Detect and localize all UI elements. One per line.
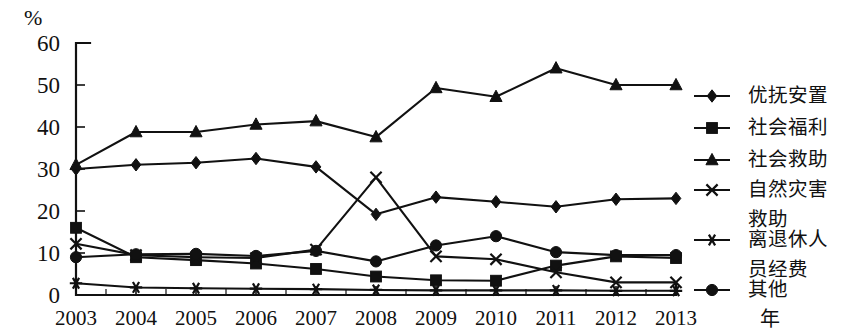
cross-marker bbox=[370, 172, 381, 183]
series-2 bbox=[70, 62, 682, 170]
legend-label: 优抚安置 bbox=[748, 84, 828, 107]
line-chart: % 年 0102030405060 2003200420052006200720… bbox=[0, 0, 864, 333]
diamond-marker bbox=[251, 152, 261, 164]
x-tick-label-2008: 2008 bbox=[355, 306, 397, 330]
diamond-marker bbox=[431, 191, 441, 203]
x-tick-label-2003: 2003 bbox=[55, 306, 97, 330]
series-line bbox=[76, 159, 676, 215]
circle-marker bbox=[550, 247, 561, 258]
x-tick-label-2005: 2005 bbox=[175, 306, 217, 330]
square-marker bbox=[71, 222, 82, 233]
y-tick-label-10: 10 bbox=[37, 241, 60, 266]
x-tick-label-2004: 2004 bbox=[115, 306, 158, 330]
triangle-marker bbox=[310, 115, 322, 126]
y-tick-label-20: 20 bbox=[37, 199, 60, 224]
diamond-marker bbox=[491, 196, 501, 208]
y-tick-label-50: 50 bbox=[37, 73, 60, 98]
x-tick-label-2010: 2010 bbox=[475, 306, 517, 330]
legend-item-3[interactable]: 自然灾害救助 bbox=[694, 178, 828, 231]
circle-marker bbox=[250, 250, 261, 261]
triangle-marker bbox=[550, 62, 562, 73]
circle-marker bbox=[706, 284, 717, 295]
series-5 bbox=[70, 231, 681, 267]
circle-marker bbox=[310, 245, 321, 256]
legend-item-1[interactable]: 社会福利 bbox=[694, 116, 828, 139]
circle-marker bbox=[130, 249, 141, 260]
square-marker bbox=[371, 271, 382, 282]
square-marker bbox=[431, 275, 442, 286]
series-0 bbox=[71, 152, 681, 220]
square-marker bbox=[707, 123, 718, 134]
y-tick-label-30: 30 bbox=[37, 157, 60, 182]
triangle-marker bbox=[70, 158, 82, 169]
diamond-marker bbox=[671, 192, 681, 204]
x-tick-label-2009: 2009 bbox=[415, 306, 457, 330]
circle-marker bbox=[610, 250, 621, 261]
x-tick-label-2006: 2006 bbox=[235, 306, 277, 330]
y-tick-label-0: 0 bbox=[49, 283, 61, 308]
square-marker bbox=[311, 264, 322, 275]
legend-label: 其他 bbox=[748, 278, 788, 301]
diamond-marker bbox=[611, 193, 621, 205]
diamond-marker bbox=[131, 159, 141, 171]
y-axis-tick-labels: 0102030405060 bbox=[37, 31, 60, 308]
diamond-marker bbox=[707, 90, 717, 102]
y-axis-unit: % bbox=[24, 5, 42, 30]
series-line bbox=[76, 68, 676, 165]
square-marker bbox=[491, 275, 502, 286]
chart-legend: 优抚安置社会福利社会救助自然灾害救助离退休人员经费其他 bbox=[694, 84, 828, 301]
circle-marker bbox=[190, 248, 201, 259]
diamond-marker bbox=[551, 201, 561, 213]
x-axis-tick-labels: 2003200420052006200720082009201020112012… bbox=[55, 306, 697, 330]
chart-series bbox=[70, 62, 682, 297]
legend-label: 离退休人 bbox=[748, 228, 828, 251]
y-axis-unit-label: % bbox=[24, 5, 42, 30]
circle-marker bbox=[70, 252, 81, 263]
x-tick-label-2007: 2007 bbox=[295, 306, 337, 330]
x-axis-unit-label: 年 bbox=[760, 307, 780, 331]
y-tick-label-40: 40 bbox=[37, 115, 60, 140]
x-tick-label-2013: 2013 bbox=[655, 306, 697, 330]
diamond-marker bbox=[311, 161, 321, 173]
circle-marker bbox=[670, 250, 681, 261]
circle-marker bbox=[490, 231, 501, 242]
x-tick-label-2012: 2012 bbox=[595, 306, 637, 330]
legend-item-2[interactable]: 社会救助 bbox=[694, 148, 828, 171]
legend-item-4[interactable]: 离退休人员经费 bbox=[694, 228, 828, 281]
y-tick-label-60: 60 bbox=[37, 31, 60, 56]
chart-root: % 年 0102030405060 2003200420052006200720… bbox=[0, 0, 864, 333]
diamond-marker bbox=[191, 157, 201, 169]
circle-marker bbox=[430, 240, 441, 251]
diamond-marker bbox=[371, 208, 381, 220]
series-3 bbox=[70, 172, 681, 288]
circle-marker bbox=[370, 256, 381, 267]
legend-item-5[interactable]: 其他 bbox=[694, 278, 788, 301]
legend-label: 社会救助 bbox=[748, 148, 828, 171]
x-tick-label-2011: 2011 bbox=[535, 306, 576, 330]
legend-label: 自然灾害 bbox=[748, 178, 828, 201]
legend-label: 社会福利 bbox=[748, 116, 828, 139]
asterisk-marker bbox=[706, 235, 718, 246]
x-axis-unit: 年 bbox=[760, 307, 780, 331]
legend-item-0[interactable]: 优抚安置 bbox=[694, 84, 828, 107]
triangle-marker bbox=[430, 81, 442, 92]
